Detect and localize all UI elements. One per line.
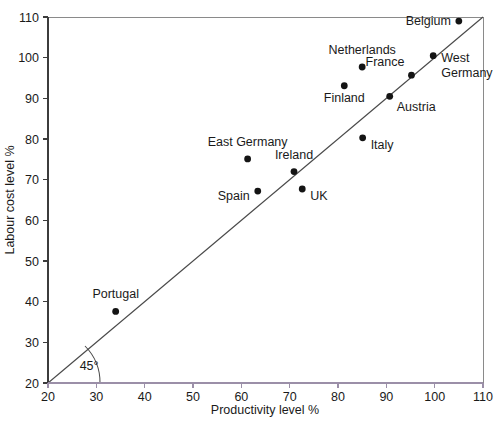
- point-label: Finland: [324, 91, 365, 105]
- y-axis: 2030405060708090100110 Labour cost level…: [3, 11, 48, 391]
- y-axis-ticks: [43, 17, 48, 383]
- point-label: UK: [310, 189, 328, 203]
- x-tick-label-90: 90: [379, 390, 393, 404]
- scatter-plot-figure: 2030405060708090100110 Labour cost level…: [0, 0, 499, 439]
- y-tick-label-70: 70: [25, 173, 39, 187]
- y-tick-label-50: 50: [25, 255, 39, 269]
- identity-reference-line: [48, 17, 483, 383]
- data-point-italy: Italy: [359, 134, 394, 151]
- y-tick-label-40: 40: [25, 295, 39, 309]
- point-marker: [359, 134, 366, 141]
- data-point-west-germany: WestGermany: [430, 51, 494, 80]
- point-marker: [299, 186, 306, 193]
- data-point-france: France: [366, 55, 415, 78]
- x-axis-title: Productivity level %: [211, 403, 319, 417]
- point-marker: [112, 308, 119, 315]
- x-tick-label-50: 50: [186, 390, 200, 404]
- x-tick-label-110: 110: [473, 390, 493, 404]
- point-marker: [291, 168, 298, 175]
- x-tick-label-60: 60: [234, 390, 248, 404]
- x-axis-tick-labels: 2030405060708090100110: [41, 390, 493, 404]
- data-point-spain: Spain: [218, 188, 261, 203]
- point-label: France: [366, 55, 405, 69]
- data-point-ireland: Ireland: [275, 148, 313, 175]
- point-label: Italy: [371, 138, 395, 152]
- point-label: Portugal: [92, 287, 139, 301]
- data-point-uk: UK: [299, 186, 328, 203]
- x-tick-label-70: 70: [283, 390, 297, 404]
- data-point-finland: Finland: [324, 82, 365, 104]
- y-tick-label-30: 30: [25, 336, 39, 350]
- point-label: Ireland: [275, 148, 313, 162]
- point-marker: [359, 64, 366, 71]
- y-axis-title: Labour cost level %: [3, 145, 17, 254]
- x-tick-label-20: 20: [41, 390, 55, 404]
- y-tick-label-100: 100: [18, 51, 39, 65]
- point-label: Belgium: [406, 14, 451, 28]
- point-marker: [341, 82, 348, 89]
- point-marker: [244, 156, 251, 163]
- y-tick-label-20: 20: [25, 377, 39, 391]
- data-point-portugal: Portugal: [92, 287, 139, 314]
- x-axis: 2030405060708090100110 Productivity leve…: [41, 383, 493, 417]
- figure-caption-ghost: [56, 432, 386, 439]
- plot-annotations: 45°: [80, 359, 99, 373]
- x-tick-label-40: 40: [138, 390, 152, 404]
- y-axis-tick-labels: 2030405060708090100110: [18, 11, 39, 391]
- point-marker: [386, 93, 393, 100]
- point-label: Austria: [397, 100, 436, 114]
- y-tick-label-110: 110: [19, 11, 39, 25]
- annotation-0: 45°: [80, 359, 99, 373]
- y-tick-label-90: 90: [25, 92, 39, 106]
- y-tick-label-60: 60: [25, 214, 39, 228]
- y-tick-label-80: 80: [25, 133, 39, 147]
- diagonal-line: [48, 17, 483, 383]
- plot-canvas: 2030405060708090100110 Labour cost level…: [0, 0, 499, 439]
- point-marker: [430, 52, 437, 59]
- point-marker: [455, 18, 462, 25]
- x-tick-label-30: 30: [89, 390, 103, 404]
- data-point-belgium: Belgium: [406, 14, 463, 28]
- data-point-austria: Austria: [386, 93, 435, 114]
- point-marker: [254, 188, 261, 195]
- point-label: Spain: [218, 189, 250, 203]
- x-axis-ticks: [48, 383, 483, 388]
- x-tick-label-100: 100: [424, 390, 445, 404]
- point-label: WestGermany: [441, 51, 493, 80]
- point-marker: [408, 72, 415, 79]
- x-tick-label-80: 80: [331, 390, 345, 404]
